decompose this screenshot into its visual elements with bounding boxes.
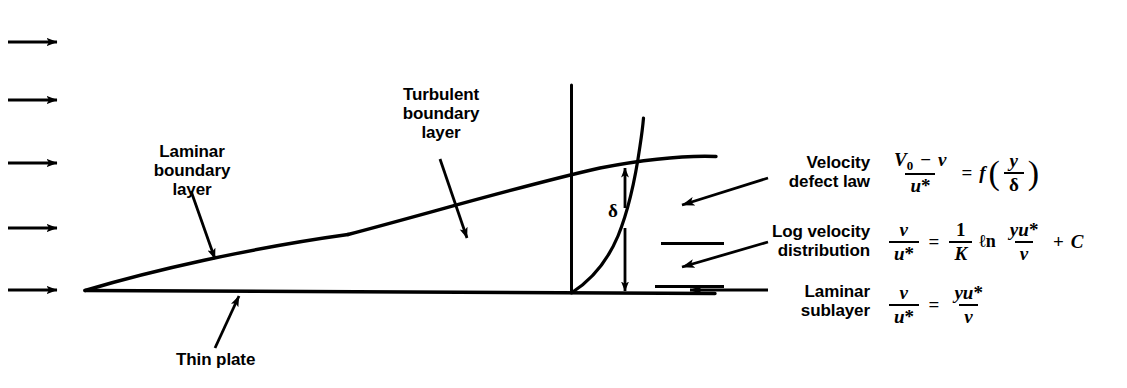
laminar-sublayer-equation: v u* = yu* ν (886, 283, 990, 327)
star-symbol: * (905, 243, 914, 264)
u-symbol: u (1018, 219, 1029, 240)
turbulent-boundary-layer-edge (348, 156, 716, 234)
v-over-ustar-fraction: v u* (889, 283, 919, 327)
nu-symbol: ν (959, 304, 977, 327)
y-symbol: y (1005, 151, 1023, 172)
star-symbol: * (1029, 219, 1038, 240)
velocity-defect-numerator: V0−v (889, 150, 951, 173)
plus-operator: + (1053, 231, 1064, 253)
v-symbol: v (895, 220, 913, 241)
u-symbol: u (894, 306, 905, 327)
paren-open: ( (989, 159, 1000, 187)
constant-C-symbol: C (1071, 231, 1084, 253)
ustar-denominator: u* (889, 304, 919, 327)
velocity-defect-law-leader-arrow (682, 178, 768, 205)
yustar-numerator: yu* (949, 283, 987, 304)
yustar-numerator: yu* (1005, 220, 1043, 241)
laminar-boundary-layer-label: Laminar boundary layer (127, 142, 257, 199)
star-symbol: * (905, 306, 914, 327)
paren-close: ) (1028, 159, 1039, 187)
laminar-sublayer-label: Laminar sublayer (766, 282, 870, 320)
v-symbol: v (895, 283, 913, 304)
boundary-layer-edge-curve (85, 235, 348, 291)
y-over-delta-fraction: y δ (1004, 151, 1024, 195)
star-symbol: * (921, 175, 930, 196)
equals-sign: = (929, 231, 940, 253)
velocity-defect-law-label: Velocity defect law (766, 153, 870, 191)
turbulent-boundary-layer-leader-arrow (440, 159, 467, 238)
velocity-defect-denominator: u* (905, 173, 935, 196)
one-over-kappa-fraction: 1 K (949, 220, 972, 264)
laminar-boundary-layer-leader-arrow (191, 191, 215, 259)
thin-plate-label: Thin plate (176, 350, 255, 369)
one-numerator: 1 (951, 220, 971, 241)
delta-symbol: δ (1004, 172, 1024, 195)
figure-canvas: Laminar boundary layer Turbulent boundar… (0, 0, 1127, 388)
u-symbol: u (894, 243, 905, 264)
thin-plate-line (85, 291, 715, 294)
yustar-over-nu-fraction: yu* ν (1005, 220, 1043, 264)
kappa-symbol: K (949, 241, 972, 264)
yustar-over-nu-fraction: yu* ν (949, 283, 987, 327)
turbulent-boundary-layer-label: Turbulent boundary layer (376, 85, 506, 142)
u-symbol: u (910, 175, 921, 196)
velocity-defect-law-equation: V0−v u* = f ( y δ ) (886, 150, 1040, 196)
minus-operator: − (920, 149, 931, 170)
ustar-denominator: u* (889, 241, 919, 264)
delta-thickness-label: δ (608, 200, 618, 222)
log-velocity-distribution-equation: v u* = 1 K ℓn yu* ν + C (886, 220, 1083, 264)
V0-subscript: 0 (907, 158, 913, 173)
function-f-symbol: f (979, 162, 985, 184)
v-over-ustar-fraction: v u* (889, 220, 919, 264)
velocity-defect-fraction: V0−v u* (889, 150, 951, 196)
equals-sign: = (961, 162, 972, 184)
nu-symbol: ν (1015, 241, 1033, 264)
V0-symbol: V (894, 149, 907, 170)
equals-sign: = (929, 294, 940, 316)
y-symbol: y (954, 282, 962, 303)
thin-plate-leader-arrow (215, 296, 239, 348)
u-symbol: u (963, 282, 974, 303)
inlet-flow-arrows (8, 42, 57, 290)
star-symbol: * (973, 282, 982, 303)
v-symbol: v (938, 149, 946, 170)
log-velocity-distribution-label: Log velocity distribution (760, 222, 870, 260)
natural-log-symbol: ℓn (979, 231, 996, 252)
log-velocity-distribution-leader-arrow (682, 242, 768, 267)
